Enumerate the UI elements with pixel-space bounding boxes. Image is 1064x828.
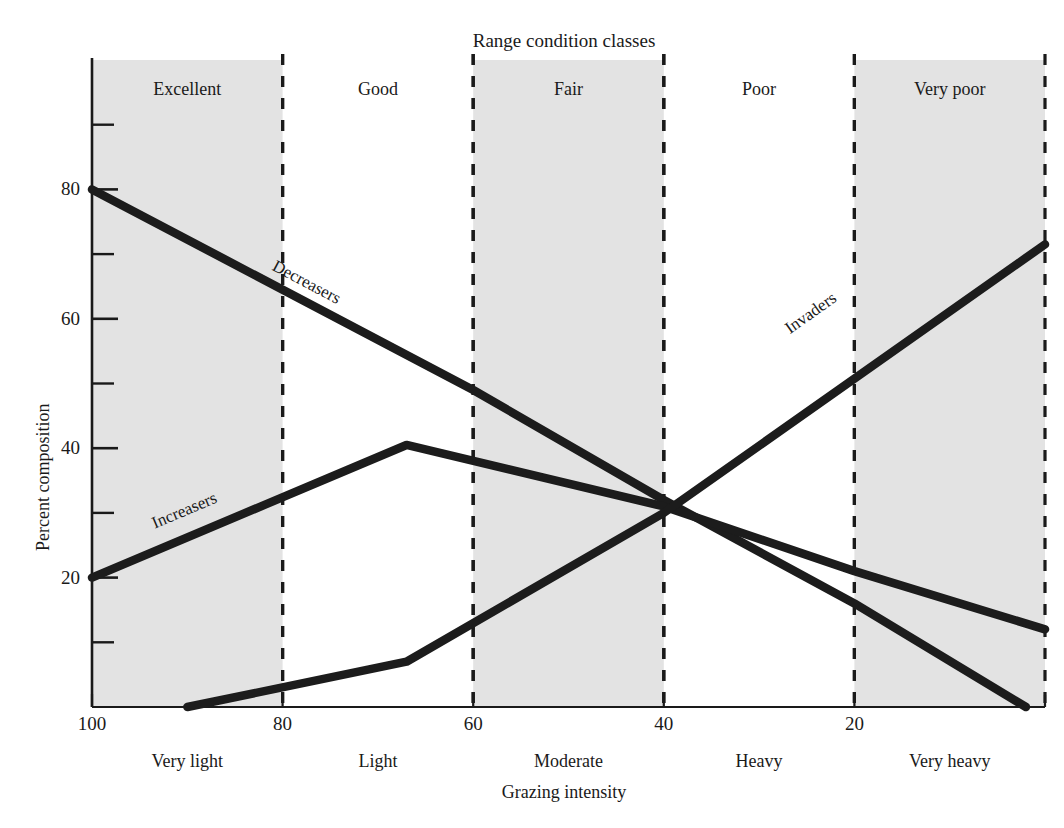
- condition-class-label: Excellent: [153, 80, 221, 98]
- condition-class-bands: [92, 60, 1045, 707]
- x-axis-tick-label: 20: [845, 714, 864, 733]
- grazing-intensity-label: Heavy: [736, 752, 783, 770]
- x-axis-tick-label: 80: [273, 714, 292, 733]
- y-axis-tick-label: 80: [61, 179, 80, 198]
- y-axis-tick-label: 60: [61, 309, 80, 328]
- y-axis-tick-label: 20: [61, 568, 80, 587]
- x-axis-tick-label: 60: [464, 714, 483, 733]
- x-axis-tick-label: 40: [654, 714, 673, 733]
- page-title: Range condition classes: [473, 31, 656, 50]
- condition-class-label: Good: [358, 80, 398, 98]
- chart-canvas: [0, 0, 1064, 828]
- condition-class-label: Very poor: [914, 80, 985, 98]
- range-condition-chart: Range condition classes Grazing intensit…: [0, 0, 1064, 828]
- grazing-intensity-label: Moderate: [534, 752, 603, 770]
- grazing-intensity-label: Very light: [152, 752, 224, 770]
- condition-class-label: Poor: [742, 80, 776, 98]
- condition-class-band: [854, 60, 1045, 707]
- x-axis-tick-label: 100: [78, 714, 107, 733]
- grazing-intensity-label: Very heavy: [909, 752, 990, 770]
- grazing-intensity-label: Light: [358, 752, 397, 770]
- y-axis-title: Percent composition: [34, 404, 52, 551]
- condition-class-label: Fair: [554, 80, 583, 98]
- y-axis-tick-label: 40: [61, 438, 80, 457]
- x-axis-title: Grazing intensity: [502, 783, 626, 801]
- condition-class-band: [92, 60, 283, 707]
